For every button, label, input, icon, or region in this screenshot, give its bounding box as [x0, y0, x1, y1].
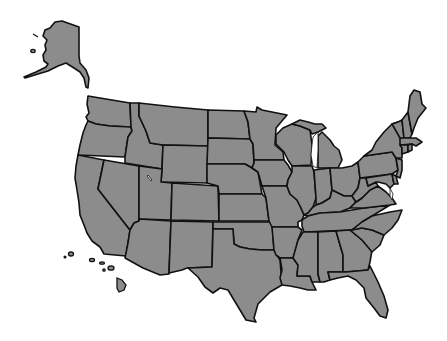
state-hawaii-molokai — [100, 262, 105, 264]
alaska-island — [31, 49, 35, 52]
state-north-dakota[interactable] — [208, 110, 250, 139]
alaska-island-2 — [33, 34, 38, 37]
us-map: United States map — [0, 0, 447, 341]
state-connecticut[interactable] — [400, 145, 408, 154]
state-michigan[interactable] — [318, 132, 342, 168]
state-florida[interactable] — [328, 266, 388, 318]
state-colorado[interactable] — [171, 183, 219, 221]
state-hawaii-niihau — [64, 256, 66, 258]
state-hawaii-maui — [108, 266, 114, 270]
lake-michigan — [311, 132, 318, 168]
state-wyoming[interactable] — [161, 145, 208, 183]
state-hawaii-big-island — [117, 278, 126, 292]
us-map-svg — [0, 0, 447, 341]
state-alaska[interactable] — [24, 21, 89, 88]
state-montana[interactable] — [139, 103, 208, 146]
state-hawaii-kauai[interactable] — [69, 252, 74, 256]
state-new-jersey[interactable] — [396, 158, 402, 178]
state-hawaii-oahu — [90, 258, 95, 261]
state-new-mexico[interactable] — [169, 221, 213, 273]
state-oregon[interactable] — [78, 121, 132, 157]
state-rhode-island[interactable] — [408, 144, 412, 152]
state-hawaii-lanai — [103, 269, 105, 271]
state-arizona[interactable] — [125, 219, 171, 275]
state-maine[interactable] — [408, 90, 426, 134]
state-kansas[interactable] — [219, 194, 269, 221]
